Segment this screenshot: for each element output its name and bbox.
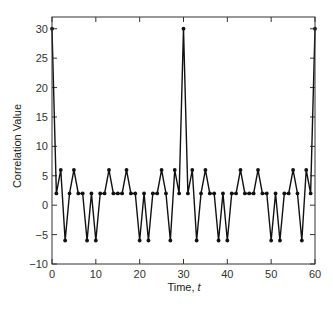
data-point bbox=[212, 192, 216, 196]
data-point bbox=[304, 168, 308, 172]
correlation-chart: 0102030405060−10−5051015202530 Time, t C… bbox=[0, 0, 333, 309]
x-tick-label: 20 bbox=[134, 268, 146, 280]
data-point bbox=[274, 192, 278, 196]
x-tick-label: 40 bbox=[221, 268, 233, 280]
y-tick-label: 30 bbox=[36, 23, 48, 35]
x-tick-label: 50 bbox=[265, 268, 277, 280]
data-point bbox=[142, 192, 146, 196]
y-tick-label: 25 bbox=[36, 52, 48, 64]
x-tick-label: 30 bbox=[177, 268, 189, 280]
data-point bbox=[160, 168, 164, 172]
data-point bbox=[72, 168, 76, 172]
data-point bbox=[282, 192, 286, 196]
data-point bbox=[239, 168, 243, 172]
data-point bbox=[217, 239, 221, 243]
data-point bbox=[243, 192, 247, 196]
y-tick-label: 5 bbox=[42, 170, 48, 182]
data-point bbox=[120, 192, 124, 196]
data-point bbox=[186, 192, 190, 196]
data-point bbox=[107, 168, 111, 172]
data-point bbox=[76, 192, 80, 196]
y-tick-label: 15 bbox=[36, 111, 48, 123]
data-point bbox=[85, 239, 89, 243]
data-point bbox=[225, 239, 229, 243]
data-point bbox=[111, 192, 115, 196]
data-point bbox=[287, 192, 291, 196]
data-point bbox=[59, 168, 63, 172]
data-point bbox=[129, 192, 133, 196]
data-point bbox=[182, 27, 186, 31]
data-point bbox=[103, 192, 107, 196]
data-point bbox=[68, 192, 72, 196]
y-tick-label: −10 bbox=[29, 258, 48, 270]
data-point bbox=[155, 192, 159, 196]
data-point bbox=[164, 192, 168, 196]
data-point bbox=[230, 192, 234, 196]
data-point bbox=[247, 192, 251, 196]
data-point bbox=[265, 192, 269, 196]
data-point bbox=[256, 168, 260, 172]
data-point bbox=[291, 168, 295, 172]
data-point bbox=[90, 192, 94, 196]
data-point bbox=[261, 192, 265, 196]
data-point bbox=[177, 192, 181, 196]
data-point bbox=[98, 192, 102, 196]
axis-tick-labels: 0102030405060−10−5051015202530 bbox=[29, 23, 321, 280]
data-point bbox=[208, 192, 212, 196]
data-point bbox=[252, 192, 256, 196]
data-point bbox=[116, 192, 120, 196]
x-axis-label: Time, t bbox=[167, 281, 201, 293]
data-point bbox=[81, 192, 85, 196]
x-tick-label: 0 bbox=[49, 268, 55, 280]
data-point bbox=[221, 192, 225, 196]
data-point bbox=[199, 192, 203, 196]
data-point bbox=[195, 239, 199, 243]
y-tick-label: 20 bbox=[36, 82, 48, 94]
data-point bbox=[94, 239, 98, 243]
data-point bbox=[125, 168, 129, 172]
data-point bbox=[147, 239, 151, 243]
x-tick-label: 60 bbox=[309, 268, 321, 280]
data-point bbox=[54, 192, 58, 196]
data-point bbox=[269, 239, 273, 243]
data-point bbox=[234, 192, 238, 196]
data-point bbox=[309, 192, 313, 196]
data-point bbox=[278, 239, 282, 243]
y-tick-label: −5 bbox=[35, 229, 48, 241]
y-axis-label: Correlation Value bbox=[11, 104, 23, 188]
data-point bbox=[133, 192, 137, 196]
data-line bbox=[52, 29, 315, 241]
data-point bbox=[168, 239, 172, 243]
data-point bbox=[151, 192, 155, 196]
data-point bbox=[300, 239, 304, 243]
y-tick-label: 0 bbox=[42, 199, 48, 211]
y-tick-label: 10 bbox=[36, 140, 48, 152]
data-point bbox=[63, 239, 67, 243]
x-tick-label: 10 bbox=[90, 268, 102, 280]
data-point bbox=[138, 239, 142, 243]
data-point bbox=[173, 168, 177, 172]
data-point bbox=[190, 168, 194, 172]
data-point bbox=[296, 192, 300, 196]
data-point bbox=[204, 168, 208, 172]
